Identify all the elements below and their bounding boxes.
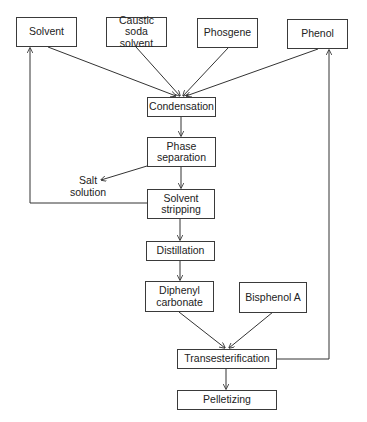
node-label: Solvent stripping: [158, 193, 204, 216]
arrow-solvent-to-condensation: [48, 47, 176, 96]
node-label: Pelletizing: [203, 394, 251, 406]
arrow-bisphenol-to-trans: [229, 312, 273, 348]
node-phosgene: Phosgene: [197, 18, 258, 48]
arrow-diphenyl-to-trans: [179, 312, 225, 348]
node-label: Phase separation: [156, 141, 208, 164]
node-label: Phenol: [301, 28, 334, 40]
node-label: Phosgene: [204, 27, 251, 39]
node-distillation: Distillation: [146, 241, 215, 261]
node-diphenyl-carbonate: Diphenyl carbonate: [145, 281, 214, 312]
node-label: Diphenyl carbonate: [154, 285, 206, 308]
node-transesterification: Transesterification: [177, 349, 277, 369]
node-label: Bisphenol A: [245, 292, 300, 304]
node-label: Transesterification: [184, 353, 269, 365]
arrow-phenol-to-condensation: [186, 49, 318, 96]
node-solvent-stripping: Solvent stripping: [147, 189, 215, 219]
node-solvent: Solvent: [16, 17, 77, 47]
node-pelletizing: Pelletizing: [177, 390, 277, 410]
node-label: Solvent: [29, 26, 64, 38]
node-bisphenol-a: Bisphenol A: [239, 282, 307, 313]
label-salt-solution: Salt solution: [68, 175, 108, 198]
node-phenol: Phenol: [287, 19, 348, 49]
node-caustic-soda-solvent: Caustic soda solvent: [106, 17, 167, 47]
node-label: Distillation: [157, 245, 205, 257]
node-label: Caustic soda solvent: [109, 15, 165, 50]
node-label: Condensation: [149, 101, 214, 113]
node-phase-separation: Phase separation: [147, 137, 216, 167]
node-condensation: Condensation: [147, 97, 216, 117]
